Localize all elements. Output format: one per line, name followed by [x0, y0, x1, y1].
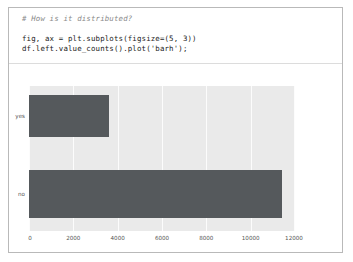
code-comment-line: # How is it distributed? [22, 14, 342, 25]
code-cell[interactable]: # How is it distributed? fig, ax = plt.s… [9, 8, 342, 64]
code-line-2: df.left.value_counts().plot('barh'); [22, 44, 342, 55]
xtick-label-6000: 6000 [155, 235, 169, 241]
notebook-cell-frame: # How is it distributed? fig, ax = plt.s… [8, 7, 343, 253]
code-line-1: fig, ax = plt.subplots(figsize=(5, 3)) [22, 34, 342, 45]
xtick-label-0: 0 [28, 235, 32, 241]
xtick-label-8000: 8000 [199, 235, 213, 241]
xtick-label-4000: 4000 [111, 235, 125, 241]
xtick-label-10000: 10000 [242, 235, 260, 241]
xtick-label-12000: 12000 [285, 235, 303, 241]
figure-output: yes no 0 2000 4000 6000 8000 10000 12000 [9, 64, 342, 252]
xtick-label-2000: 2000 [66, 235, 80, 241]
ytick-label-yes: yes [15, 113, 25, 119]
gridline-12000 [294, 86, 295, 231]
ytick-label-no: no [18, 191, 25, 197]
chart-plot-area: yes no [29, 86, 295, 231]
x-axis-ticks: 0 2000 4000 6000 8000 10000 12000 [29, 235, 295, 247]
bar-yes [29, 95, 109, 137]
bar-no [29, 170, 282, 218]
